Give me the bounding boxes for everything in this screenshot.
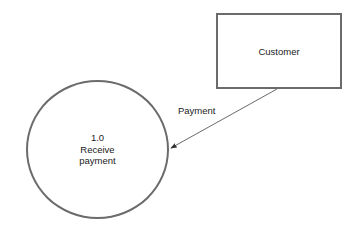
receive-payment-process[interactable]: 1.0 Receive payment xyxy=(26,80,169,219)
payment-flow-label: Payment xyxy=(178,105,216,116)
process-number: 1.0 xyxy=(91,132,104,144)
customer-entity[interactable]: Customer xyxy=(216,13,342,89)
process-name-line2: payment xyxy=(79,155,115,167)
payment-flow-arrow xyxy=(171,89,277,148)
customer-entity-label: Customer xyxy=(258,46,299,57)
process-name-line1: Receive xyxy=(80,144,114,156)
